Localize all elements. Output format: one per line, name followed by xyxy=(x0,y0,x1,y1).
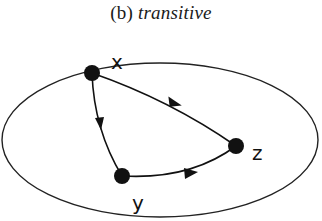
transitive-graph-diagram: x y z xyxy=(0,0,322,221)
edge-x-to-z xyxy=(92,73,236,146)
node-y xyxy=(114,168,130,184)
node-label-z: z xyxy=(252,141,263,165)
arrowhead-y-to-z xyxy=(184,168,198,179)
arrowhead-x-to-z xyxy=(168,97,183,108)
node-label-x: x xyxy=(111,50,123,74)
node-z xyxy=(228,138,244,154)
node-x xyxy=(84,65,100,81)
edge-y-to-z xyxy=(122,146,236,176)
set-ellipse xyxy=(2,63,318,217)
edge-x-to-y xyxy=(92,73,122,176)
node-label-y: y xyxy=(132,191,144,215)
arrowhead-x-to-y xyxy=(95,117,104,130)
